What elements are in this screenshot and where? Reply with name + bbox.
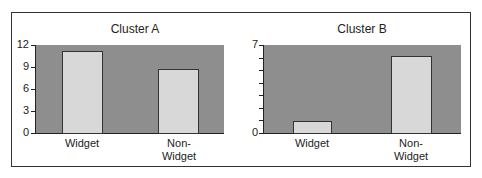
- y-tick: [259, 133, 263, 134]
- bar-widget: [62, 51, 103, 134]
- y-tick: [259, 70, 263, 71]
- y-tick: [31, 89, 35, 90]
- y-tick: [31, 67, 35, 68]
- y-axis: [263, 45, 264, 134]
- x-category-label: Non-: [144, 137, 214, 150]
- y-tick-label: 12: [9, 38, 29, 50]
- x-category-label: Widget: [376, 150, 446, 163]
- panel-title: Cluster B: [307, 22, 417, 36]
- y-tick-label: 0: [238, 126, 258, 138]
- y-tick-label: 3: [9, 104, 29, 116]
- y-tick: [259, 83, 263, 84]
- y-tick: [259, 58, 263, 59]
- y-tick-label: 0: [9, 126, 29, 138]
- y-tick-label: 6: [9, 82, 29, 94]
- x-category-label: Widget: [144, 150, 214, 163]
- x-category-label: Widget: [47, 137, 117, 150]
- x-category-label: Widget: [277, 137, 347, 150]
- bar-widget: [293, 121, 332, 134]
- y-tick: [31, 133, 35, 134]
- panel-title: Cluster A: [80, 22, 190, 36]
- bar-non-widget: [391, 56, 432, 134]
- y-tick: [31, 45, 35, 46]
- y-tick-label: 7: [238, 38, 258, 50]
- y-tick: [259, 95, 263, 96]
- y-axis: [35, 45, 36, 134]
- x-category-label: Non-: [376, 137, 446, 150]
- y-tick: [31, 111, 35, 112]
- y-tick-label: 9: [9, 60, 29, 72]
- y-tick: [259, 108, 263, 109]
- bar-non-widget: [158, 69, 199, 134]
- y-tick: [259, 120, 263, 121]
- y-tick: [259, 45, 263, 46]
